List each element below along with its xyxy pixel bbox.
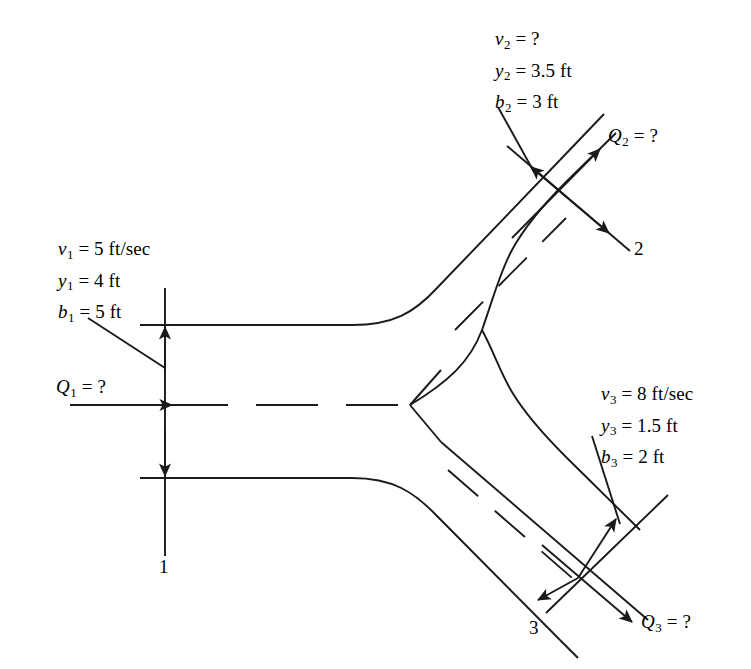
wall-branch3-lower-extension bbox=[560, 640, 578, 658]
param-y2: y2 = 3.5 ft bbox=[495, 58, 572, 90]
section-marker-label-3: 3 bbox=[529, 617, 539, 639]
param-block-section-2: v2 = ? y2 = 3.5 ft b2 = 3 ft bbox=[495, 26, 572, 121]
divider-nose-lower bbox=[410, 405, 441, 442]
param-v1: v1 = 5 ft/sec bbox=[58, 236, 150, 268]
param-block-section-1: v1 = 5 ft/sec y1 = 4 ft b1 = 5 ft bbox=[58, 236, 150, 331]
wall-inlet-top-to-branch2 bbox=[140, 160, 560, 325]
param-y3: y3 = 1.5 ft bbox=[601, 413, 693, 445]
param-b1: b1 = 5 ft bbox=[58, 299, 150, 331]
section-line-3 bbox=[546, 495, 668, 613]
section-3-width-arrow-upper bbox=[578, 519, 616, 578]
param-block-section-3: v3 = 8 ft/sec y3 = 1.5 ft b3 = 2 ft bbox=[601, 381, 693, 476]
centerline-branch3 bbox=[448, 470, 586, 590]
param-b3: b3 = 2 ft bbox=[601, 444, 693, 476]
discharge-label-q1: Q1 = ? bbox=[56, 374, 106, 406]
param-v2: v2 = ? bbox=[495, 26, 572, 58]
param-y1: y1 = 4 ft bbox=[58, 268, 150, 300]
section-2-width-arrow-lower bbox=[570, 200, 609, 233]
wall-branch2-upper-extension bbox=[560, 114, 604, 160]
section-marker-label-2: 2 bbox=[634, 238, 644, 260]
wall-inlet-bottom-to-branch3 bbox=[140, 478, 560, 640]
centerline-branch2 bbox=[455, 218, 566, 330]
flow-arrow-q3 bbox=[542, 545, 632, 622]
discharge-label-q2: Q2 = ? bbox=[608, 123, 658, 155]
channel-junction-diagram: v1 = 5 ft/sec y1 = 4 ft b1 = 5 ft Q1 = ?… bbox=[0, 0, 751, 669]
wall-divider-inner-branch2 bbox=[410, 133, 616, 405]
param-b2: b2 = 3 ft bbox=[495, 89, 572, 121]
diagram-canvas bbox=[0, 0, 751, 669]
discharge-label-q3: Q3 = ? bbox=[641, 609, 691, 641]
section-marker-label-1: 1 bbox=[159, 556, 169, 578]
param-v3: v3 = 8 ft/sec bbox=[601, 381, 693, 413]
